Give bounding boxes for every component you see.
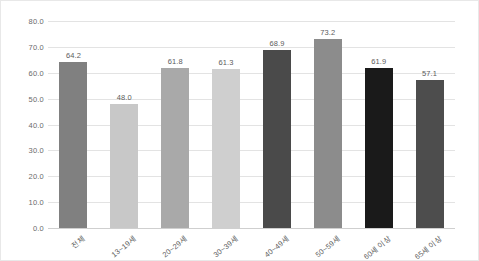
- gridline-60.0: [48, 73, 455, 74]
- gridline-70.0: [48, 47, 455, 48]
- bar-group: 73.2: [314, 21, 342, 228]
- bar-chart: 0.010.020.030.040.050.060.070.080.0 64.2…: [0, 0, 479, 261]
- bar-value-label: 64.2: [66, 51, 81, 60]
- bar-group: 57.1: [416, 21, 444, 228]
- bar-value-label: 61.3: [219, 58, 234, 67]
- bar[interactable]: [59, 62, 87, 228]
- plot-area: 64.248.061.861.368.973.261.957.1: [48, 21, 455, 228]
- y-axis-tick-label: 10.0: [2, 198, 44, 207]
- gridline-80.0: [48, 21, 455, 22]
- x-axis-category-label: 13~19세: [109, 233, 138, 259]
- bar[interactable]: [263, 50, 291, 228]
- bar-group: 61.8: [161, 21, 189, 228]
- bar[interactable]: [110, 104, 138, 228]
- y-axis: 0.010.020.030.040.050.060.070.080.0: [0, 21, 44, 228]
- x-axis-category-label: 40~49세: [261, 233, 290, 259]
- bar-value-label: 61.9: [371, 57, 386, 66]
- gridline-0.0: [48, 228, 455, 229]
- bar-value-label: 57.1: [422, 69, 437, 78]
- bar-value-label: 48.0: [117, 93, 132, 102]
- bar-group: 48.0: [110, 21, 138, 228]
- y-axis-tick-label: 50.0: [2, 94, 44, 103]
- y-axis-tick-label: 80.0: [2, 17, 44, 26]
- x-axis-category-label: 전체: [69, 233, 87, 250]
- gridline-30.0: [48, 150, 455, 151]
- bar[interactable]: [365, 68, 393, 228]
- x-axis-category-label: 30~39세: [210, 233, 239, 259]
- bar-value-label: 61.8: [168, 57, 183, 66]
- bar-group: 68.9: [263, 21, 291, 228]
- gridline-40.0: [48, 125, 455, 126]
- bar[interactable]: [212, 69, 240, 228]
- y-axis-tick-label: 40.0: [2, 120, 44, 129]
- y-axis-tick-label: 70.0: [2, 42, 44, 51]
- x-axis-category-label: 20~29세: [160, 233, 189, 259]
- y-axis-tick-label: 30.0: [2, 146, 44, 155]
- gridline-10.0: [48, 202, 455, 203]
- x-axis-category-label: 50~59세: [312, 233, 341, 259]
- bar-value-label: 68.9: [269, 39, 284, 48]
- gridline-20.0: [48, 176, 455, 177]
- bar-group: 61.3: [212, 21, 240, 228]
- y-axis-tick-label: 20.0: [2, 172, 44, 181]
- gridline-50.0: [48, 99, 455, 100]
- bar[interactable]: [161, 68, 189, 228]
- bar[interactable]: [314, 39, 342, 228]
- bar-value-label: 73.2: [320, 28, 335, 37]
- x-axis-category-label: 60세 이상: [360, 233, 392, 261]
- y-axis-tick-label: 0.0: [2, 224, 44, 233]
- x-axis-category-label: 65세 이상: [411, 233, 443, 261]
- y-axis-tick-label: 60.0: [2, 68, 44, 77]
- bar-group: 64.2: [59, 21, 87, 228]
- bar[interactable]: [416, 80, 444, 228]
- bar-group: 61.9: [365, 21, 393, 228]
